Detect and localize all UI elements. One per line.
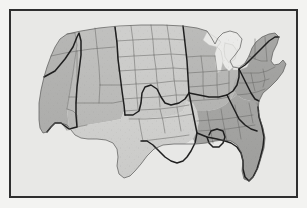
screenshot-root: Map of the contiguous United States [0,0,307,208]
map-figure-frame: Map of the contiguous United States [9,9,298,198]
map-canvas: Map of the contiguous United States [11,11,296,196]
us-map-svg [11,11,296,196]
